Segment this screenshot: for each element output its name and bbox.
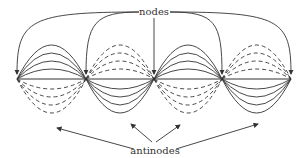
wave-lower-segment-1 (17, 79, 86, 89)
wave-lower-segment-2 (86, 79, 154, 97)
label-arrows (17, 12, 291, 149)
wave-upper-segment-4 (222, 69, 291, 79)
wave-upper-segment-1 (17, 61, 86, 79)
wave-lower-segment-3 (154, 79, 222, 105)
arrow-to-antinode-3 (156, 125, 180, 142)
wave-lower-segment-1 (17, 79, 86, 113)
wave-lower-segment-3 (154, 79, 222, 113)
wave-upper-segment-2 (86, 69, 154, 79)
wave-lower-segment-3 (154, 79, 222, 89)
wave-lower-segment-4 (222, 79, 291, 105)
wave-lower-segment-2 (86, 79, 154, 105)
wave-upper-segment-4 (222, 53, 291, 79)
wave-upper-segment-4 (222, 61, 291, 79)
wave-upper-segment-2 (86, 53, 154, 79)
standing-wave-diagram: nodes antinodes (0, 0, 304, 158)
wave-lower-segment-3 (154, 79, 222, 97)
wave-lower-segment-4 (222, 79, 291, 89)
wave-upper-segment-3 (154, 69, 222, 79)
wave-upper-segment-4 (222, 45, 291, 79)
wave-lower-segment-1 (17, 79, 86, 97)
wave-lower-segment-2 (86, 79, 154, 89)
arrow-to-antinode-1 (57, 128, 134, 149)
wave-upper-segment-2 (86, 45, 154, 79)
wave-lower-segment-1 (17, 79, 86, 105)
wave-upper-segment-1 (17, 69, 86, 79)
arrow-to-antinode-2 (131, 124, 152, 142)
wave-upper-segment-3 (154, 53, 222, 79)
arrow-to-antinode-4 (176, 124, 258, 149)
wave-lower-segment-4 (222, 79, 291, 97)
nodes-label: nodes (139, 6, 169, 17)
wave-upper-segment-1 (17, 53, 86, 79)
antinodes-label: antinodes (130, 145, 180, 156)
wave-upper-segment-3 (154, 61, 222, 79)
wave-upper-segment-2 (86, 61, 154, 79)
